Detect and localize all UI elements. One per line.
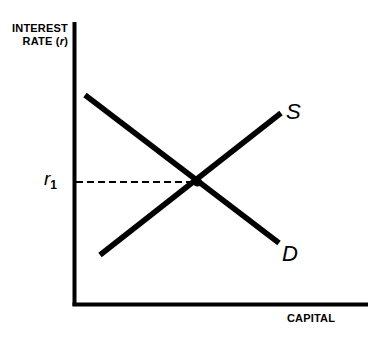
equilibrium-rate-label: r1 <box>44 169 57 191</box>
supply-curve-label: S <box>286 101 301 123</box>
y-axis-label-line1: INTEREST <box>12 22 68 34</box>
equilibrium-rate-label-subscript: 1 <box>50 178 57 192</box>
interest-rate-capital-chart: INTERESTRATE (r) CAPITAL S D r1 <box>0 0 371 345</box>
y-axis-label-line2-suffix: ) <box>64 35 68 47</box>
demand-curve <box>85 95 279 243</box>
y-axis-label: INTERESTRATE (r) <box>0 22 68 48</box>
equilibrium-point-marker <box>193 178 202 187</box>
supply-curve <box>100 113 281 255</box>
demand-curve-label: D <box>282 243 298 265</box>
x-axis-label: CAPITAL <box>258 312 364 325</box>
y-axis-label-line2-prefix: RATE ( <box>23 35 60 47</box>
